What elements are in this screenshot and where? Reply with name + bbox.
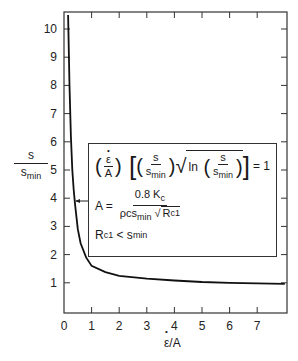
smin-denominator: smin [144,165,168,182]
bracket-open: [ [122,153,136,179]
y-label-sub: min [27,171,42,181]
y-tick-label: 10 [44,22,58,36]
fraction-s-over-smin: s smin [144,151,168,182]
x-tick-label: 5 [199,319,206,333]
x-label-rest: /A [169,336,180,350]
y-tick-label: 9 [50,50,57,64]
x-tick-label: 7 [254,319,261,333]
sqrt-rc1: √Rc1 [155,206,181,220]
smin-sub-2: min [133,230,148,240]
s-numerator: s [151,151,161,165]
x-tick-label: 4 [171,319,178,333]
a-numerator: 0.8 Kc [133,188,167,206]
y-tick-label: 7 [50,107,57,121]
r-label: R [163,207,171,220]
y-tick-label: 5 [50,163,57,177]
equation-3: Rc1 < smin [95,228,270,242]
x-axis-label: ε/A [164,336,181,350]
x-tick-label: 3 [143,319,150,333]
paren-close-3: ) [236,157,243,177]
a-equals: A = [95,199,113,213]
y-tick-label: 6 [50,135,57,149]
x-tick-label: 1 [88,319,95,333]
s-numerator-2: s [218,151,228,165]
rc1-label: R [95,228,104,242]
min-sub-2: min [219,170,234,180]
a-denominator-expr: ρcsmin √Rc1 [118,206,182,224]
y-tick-label: 4 [50,191,57,205]
rc1-sub: c1 [171,207,181,220]
a-denominator: A [103,167,114,180]
sqrt-term: √ ln ( s smin ) [176,150,243,182]
x-tick-label: 2 [116,319,123,333]
smin-sub: min [137,212,152,222]
fraction-s-over-smin-2: s smin [211,151,235,182]
y-tick-label: 3 [50,219,57,233]
x-tick-label: 0 [61,319,68,333]
min-sub: min [151,170,166,180]
paren-open-2: ( [136,156,143,176]
bracket-close: ] [243,153,250,179]
rho-c-s: ρcs [120,207,137,219]
y-label-numerator: s [14,148,48,164]
y-axis-label: s smin [14,148,48,181]
x-label-epsilon-dot: ε [164,336,169,350]
y-tick-label: 2 [50,248,57,262]
paren-open: ( [95,156,102,176]
paren-open-3: ( [198,157,210,177]
equation-2: A = 0.8 Kc ρcsmin √Rc1 [95,188,270,224]
paren-close: ) [115,156,122,176]
less-than-smin: < s [113,228,133,242]
ln-label: ln [188,160,197,174]
eps-dot: ε [106,153,111,166]
formula-box: ( ε A ) [ ( s smin ) √ ln ( s smin ) ] [88,143,277,257]
x-tick-label: 6 [226,319,233,333]
sqrt-icon: √ [176,156,187,176]
fraction-eps-over-a: ε A [103,153,114,180]
paren-close-2: ) [169,156,176,176]
y-label-denominator: smin [14,164,48,181]
kc-sub: c [160,193,165,203]
y-tick-label: 1 [50,276,57,290]
k-const: 0.8 K [135,188,161,200]
equation-1: ( ε A ) [ ( s smin ) √ ln ( s smin ) ] [95,150,270,182]
smin-denominator-2: smin [211,165,235,182]
equals-one: = 1 [253,159,270,173]
fraction-a-definition: 0.8 Kc ρcsmin √Rc1 [118,188,182,224]
rc1-sub-2: c1 [104,230,114,240]
y-tick-label: 8 [50,78,57,92]
radicand: ln ( s smin ) [186,150,242,182]
